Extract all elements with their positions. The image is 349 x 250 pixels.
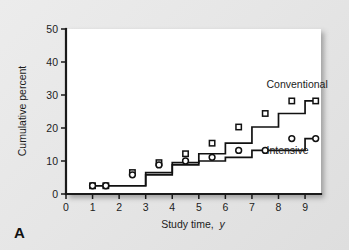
y-tick-label: 50 (46, 23, 58, 35)
data-point-marker (313, 136, 319, 142)
x-tick-label: 6 (222, 201, 228, 213)
series-conventional (90, 98, 319, 188)
x-axis-title: Study time, y (161, 218, 225, 230)
data-point-marker (209, 140, 214, 145)
y-tick-label: 40 (46, 56, 58, 68)
x-axis-title-unit: y (219, 218, 226, 230)
data-point-marker (156, 162, 162, 168)
data-point-marker (236, 148, 242, 154)
axes (66, 29, 321, 194)
chart-svg-container: 01020304050 0123456789 Conventional Inte… (0, 0, 349, 250)
step-chart: 01020304050 0123456789 Conventional Inte… (0, 0, 349, 250)
y-tick-label: 30 (46, 89, 58, 101)
x-axis-title-text: Study time, (161, 218, 214, 230)
x-tick-label: 4 (169, 201, 175, 213)
x-tick-label: 9 (302, 201, 308, 213)
data-point-marker (103, 183, 109, 189)
y-axis-ticks: 01020304050 (46, 23, 66, 200)
x-tick-label: 7 (249, 201, 255, 213)
data-point-marker (209, 154, 215, 160)
data-point-marker (90, 183, 96, 189)
data-point-marker (313, 98, 318, 103)
x-tick-label: 2 (116, 201, 122, 213)
y-tick-label: 20 (46, 122, 58, 134)
series-label-intensive: Intensive (267, 144, 309, 156)
data-point-marker (263, 111, 268, 116)
x-tick-label: 0 (63, 201, 69, 213)
data-point-marker (289, 136, 295, 142)
x-tick-label: 8 (276, 201, 282, 213)
series-label-conventional: Conventional (267, 78, 328, 90)
x-axis-ticks: 0123456789 (63, 194, 308, 213)
panel-letter: A (14, 224, 25, 241)
data-point-marker (183, 151, 188, 156)
data-point-marker (130, 172, 136, 178)
y-tick-label: 0 (52, 188, 58, 200)
data-point-marker (236, 124, 241, 129)
y-tick-label: 10 (46, 155, 58, 167)
x-tick-label: 1 (90, 201, 96, 213)
data-point-marker (289, 98, 294, 103)
x-tick-label: 5 (196, 201, 202, 213)
figure-panel-a: 01020304050 0123456789 Conventional Inte… (0, 0, 349, 250)
step-line-conventional (93, 101, 316, 186)
data-point-marker (183, 158, 189, 164)
x-tick-label: 3 (143, 201, 149, 213)
y-axis-title: Cumulative percent (16, 66, 28, 157)
